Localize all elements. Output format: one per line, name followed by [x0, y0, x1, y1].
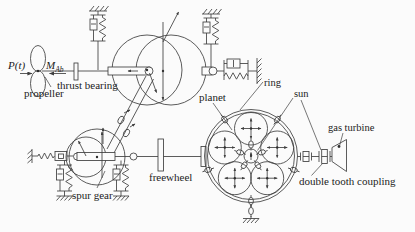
- ring-label: ring: [264, 77, 282, 88]
- wall-hatch-icon: [257, 58, 262, 84]
- planet-gear: [261, 131, 294, 164]
- ground-hatch-icon: [57, 196, 73, 201]
- spur-gear-support-left: [57, 161, 73, 201]
- bearing-spring-damper-right: [202, 9, 222, 67]
- tooth-coupling-2: [319, 150, 330, 164]
- thrust-bearing-symbol: [74, 63, 78, 80]
- gear-output-stub: [202, 67, 224, 75]
- sun-pointer-line: [258, 98, 294, 151]
- intermediate-shaft: [115, 139, 206, 171]
- gas-turbine-symbol: [332, 140, 347, 172]
- sun-gear: [244, 149, 258, 163]
- propeller-pointer-line: [45, 77, 51, 87]
- ring-restraint-spring-damper: [224, 58, 262, 84]
- force-label: P(t): [7, 59, 25, 72]
- planet-label: planet: [199, 91, 226, 103]
- double-tooth-coupling-label: double tooth coupling: [299, 175, 396, 187]
- propulsion-system-diagram: P(t) MAb propeller thrust bearing spur g…: [0, 0, 415, 232]
- tooth-coupling-1: [301, 152, 312, 162]
- rim-spring-icon: [202, 166, 215, 174]
- planet-gear: [208, 131, 241, 164]
- spur-gear-support-right: [113, 161, 129, 201]
- coil-spring-icon: [249, 205, 254, 217]
- planetary-gearset: [202, 110, 300, 224]
- rim-spring-icon: [287, 166, 300, 174]
- ceiling-hatch-icon: [89, 6, 109, 11]
- wall-hatch-icon: [28, 149, 33, 163]
- spring-damper-icon: [90, 15, 106, 41]
- bearing-spring-damper-left: [89, 6, 109, 70]
- ring-pointer-line: [240, 82, 263, 110]
- ground-hatch-icon: [243, 219, 259, 224]
- ground-hatch-icon: [113, 196, 129, 201]
- freewheel-label: freewheel: [149, 171, 192, 183]
- coupling-pointer-line: [312, 164, 323, 176]
- spring-damper-icon: [203, 18, 219, 44]
- thrust-bearing-label: thrust bearing: [57, 79, 118, 91]
- spur-gear-input-chain: [28, 149, 81, 163]
- ring-ground-spring: [243, 205, 259, 224]
- spur-gear-label: spur gear: [72, 189, 113, 201]
- gas-turbine-label: gas turbine: [328, 122, 375, 133]
- main-gear: [108, 12, 206, 105]
- sun-shaft-pointer-line: [301, 100, 321, 150]
- freewheel-symbol: [158, 139, 164, 171]
- spur-gear-pointer-line: [97, 171, 105, 188]
- ceiling-hatch-icon: [202, 9, 222, 14]
- sun-label: sun: [294, 88, 309, 99]
